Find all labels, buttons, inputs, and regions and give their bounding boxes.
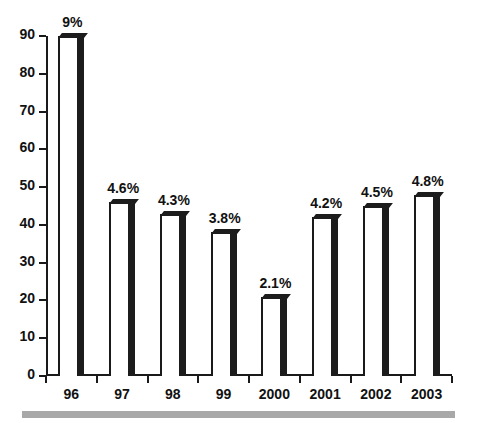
y-tick: 80 [39, 73, 46, 75]
bar-top-face [363, 203, 393, 208]
y-tick: 10 [39, 337, 46, 339]
bar-shadow [128, 204, 135, 376]
bar-top-face [261, 294, 291, 299]
bar-shadow [331, 219, 338, 376]
bar-value-label: 4.6% [107, 180, 139, 196]
bar-shadow [179, 216, 186, 376]
bar-value-label: 4.2% [310, 195, 342, 211]
bar-value-label: 3.8% [209, 210, 241, 226]
y-tick: 70 [39, 111, 46, 113]
y-axis-line [46, 36, 48, 376]
y-tick-label: 30 [19, 253, 35, 269]
bar: 4.2% [312, 217, 338, 376]
bar-top-face [414, 192, 444, 197]
x-tick [451, 376, 453, 383]
bar-shadow [77, 38, 84, 376]
bar-top-face [58, 33, 88, 38]
bar: 3.8% [211, 232, 237, 376]
x-tick [400, 376, 402, 383]
x-tick [197, 376, 199, 383]
y-tick: 60 [39, 148, 46, 150]
y-tick-label: 0 [27, 366, 35, 382]
y-tick: 90 [39, 35, 46, 37]
y-tick-label: 60 [19, 139, 35, 155]
y-tick-label: 20 [19, 290, 35, 306]
y-tick-label: 10 [19, 328, 35, 344]
footer-rule [22, 411, 455, 418]
x-axis-label: 99 [216, 386, 232, 402]
bar: 4.5% [363, 206, 389, 376]
bar-top-face [312, 214, 342, 219]
y-tick: 40 [39, 224, 46, 226]
y-tick-label: 50 [19, 177, 35, 193]
bar: 9% [58, 36, 84, 376]
x-axis-label: 98 [165, 386, 181, 402]
bar: 4.3% [160, 214, 186, 376]
bar-top-face [160, 211, 190, 216]
y-tick: 30 [39, 262, 46, 264]
y-tick-label: 80 [19, 64, 35, 80]
y-tick-label: 70 [19, 102, 35, 118]
bar-value-label: 9% [62, 14, 82, 30]
plot-area: 0102030405060708090 9%4.6%4.3%3.8%2.1%4.… [46, 36, 452, 376]
x-tick [45, 376, 47, 383]
y-tick: 50 [39, 186, 46, 188]
x-axis-label: 97 [114, 386, 130, 402]
bar-chart: 0102030405060708090 9%4.6%4.3%3.8%2.1%4.… [0, 0, 477, 423]
bar-shadow [382, 208, 389, 376]
x-axis-label: 2000 [259, 386, 290, 402]
bar-value-label: 4.8% [412, 173, 444, 189]
x-tick [350, 376, 352, 383]
x-axis-label: 2001 [310, 386, 341, 402]
bar-top-face [109, 199, 139, 204]
bar-shadow [230, 234, 237, 376]
y-tick: 20 [39, 299, 46, 301]
bar-value-label: 2.1% [259, 275, 291, 291]
bar-top-face [211, 229, 241, 234]
x-axis-label: 96 [64, 386, 80, 402]
bar: 2.1% [261, 297, 287, 376]
x-axis-label: 2002 [360, 386, 391, 402]
bar-value-label: 4.5% [361, 184, 393, 200]
y-tick-label: 40 [19, 215, 35, 231]
bar: 4.8% [414, 195, 440, 376]
x-tick [248, 376, 250, 383]
bar-value-label: 4.3% [158, 192, 190, 208]
bar-shadow [433, 197, 440, 376]
x-tick [299, 376, 301, 383]
x-tick [147, 376, 149, 383]
x-axis-label: 2003 [411, 386, 442, 402]
x-tick [96, 376, 98, 383]
bar-shadow [280, 299, 287, 376]
bar: 4.6% [109, 202, 135, 376]
y-tick-label: 90 [19, 26, 35, 42]
